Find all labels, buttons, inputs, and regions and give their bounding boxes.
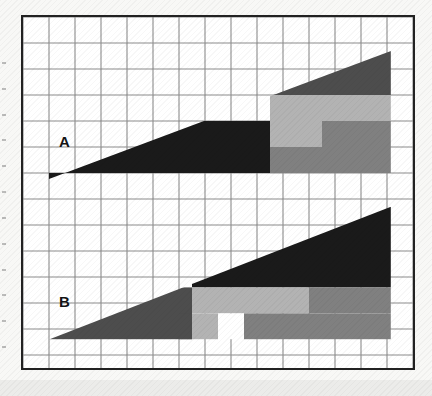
panel-label-a: A <box>59 134 70 149</box>
margin-mark <box>2 139 6 141</box>
margin-mark <box>2 191 6 193</box>
annotation-layer: A B <box>23 17 413 368</box>
margin-mark <box>2 346 6 348</box>
margin-mark <box>2 88 6 90</box>
margin-mark <box>2 217 6 219</box>
margin-mark <box>2 269 6 271</box>
left-margin-marks <box>2 62 11 348</box>
margin-mark <box>2 320 6 322</box>
page-footer-band <box>0 380 432 396</box>
margin-mark <box>2 294 6 296</box>
margin-mark <box>2 114 6 116</box>
margin-mark <box>2 62 6 64</box>
margin-mark <box>2 165 6 167</box>
panel-label-b: B <box>59 294 70 309</box>
plot-frame: A B <box>21 15 415 370</box>
margin-mark <box>2 243 6 245</box>
